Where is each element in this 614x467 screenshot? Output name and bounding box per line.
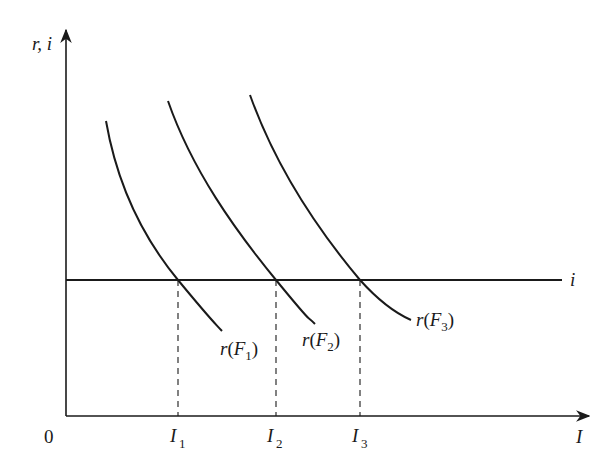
x-tick-i3-var: I [351,425,360,446]
x-tick-i2-sub: 2 [276,436,283,451]
x-axis-label: I [575,426,584,447]
curve-r-f2 [168,101,315,324]
svg-text:r(F1): r(F1) [220,338,258,363]
svg-text:r(F3): r(F3) [416,309,454,334]
investment-interest-diagram: r, i 0 I i I 1 I 2 I 3 r(F1) r(F2) r(F3) [0,0,614,467]
curve-r-f3 [250,95,411,320]
x-tick-i2-var: I [266,425,275,446]
curve-label-r-f2: r(F2) [302,329,340,354]
x-tick-i2: I 2 [266,425,283,451]
curve-r-f1 [106,121,222,331]
x-tick-i1-var: I [169,425,178,446]
x-tick-i1: I 1 [169,425,186,451]
x-tick-i3-sub: 3 [361,436,368,451]
origin-label: 0 [44,426,54,447]
interest-rate-label: i [570,269,575,290]
curve-label-r-f3: r(F3) [416,309,454,334]
curve-label-r-f1: r(F1) [220,338,258,363]
x-tick-i3: I 3 [351,425,368,451]
x-tick-i1-sub: 1 [179,436,186,451]
y-axis-label: r, i [32,33,52,54]
svg-text:r(F2): r(F2) [302,329,340,354]
